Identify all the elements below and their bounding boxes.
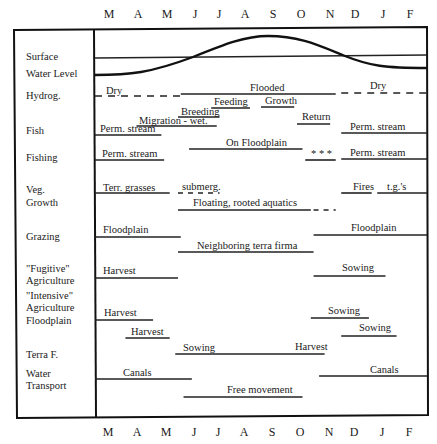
month-label-bottom: N <box>325 425 334 439</box>
event-bar: Floating, rooted aquatics <box>178 197 311 210</box>
month-label-bottom: O <box>296 425 305 439</box>
month-axis-top: MAMJJASONDJF <box>104 7 414 21</box>
event-bar: Canals <box>319 364 427 376</box>
row-label: Hydrog. <box>26 90 61 101</box>
row-label: Grazing <box>26 231 61 242</box>
month-label-top: N <box>326 7 335 21</box>
event-label: Sowing <box>183 342 216 353</box>
activity-events: DryFloodedDryFeedingGrowthBreedingMigrat… <box>95 80 427 397</box>
row-label: Growth <box>26 197 59 208</box>
event-bar: Harvest <box>95 265 178 278</box>
label-column-divider <box>94 29 96 417</box>
month-label-top: A <box>134 7 143 21</box>
event-bar: Sowing <box>314 262 386 276</box>
event-bar: Perm. stream <box>95 123 161 135</box>
event-bar: Perm. stream <box>341 121 427 133</box>
event-label: Perm. stream <box>350 147 405 158</box>
month-label-bottom: S <box>269 425 276 439</box>
month-label-bottom: J <box>192 425 197 439</box>
row-label: Transport <box>26 380 67 391</box>
event-label: Return <box>302 111 331 122</box>
event-bar: * * * <box>305 148 335 160</box>
event-label: Sowing <box>328 305 361 316</box>
event-label: Harvest <box>131 326 164 337</box>
month-label-top: J <box>217 7 222 21</box>
surface-line <box>95 55 427 58</box>
month-label-top: J <box>193 7 198 21</box>
event-label: Fires <box>353 181 374 192</box>
row-label: "Intensive" <box>26 290 73 301</box>
month-label-bottom: F <box>406 425 413 439</box>
event-label: Sowing <box>342 262 375 273</box>
row-label: "Fugitive" <box>26 263 70 274</box>
month-label-top: M <box>104 7 115 21</box>
month-label-top: A <box>241 7 250 21</box>
event-label: Perm. stream <box>350 121 405 132</box>
event-label: Dry <box>370 80 387 91</box>
event-label: t.g.'s <box>387 181 406 192</box>
month-label-top: D <box>351 7 360 21</box>
event-bar: Harvest <box>95 307 153 320</box>
event-label: Perm. stream <box>100 123 155 134</box>
row-label: Water Level <box>26 68 77 79</box>
month-label-top: M <box>162 7 173 21</box>
row-label: Agriculture <box>26 302 75 313</box>
row-label: Agriculture <box>26 275 75 286</box>
event-bar: Floodplain <box>95 224 181 237</box>
event-bar: Free movement <box>184 384 303 397</box>
event-end-label: Harvest <box>295 341 328 352</box>
event-label: Flooded <box>250 82 285 93</box>
event-bar: Sowing <box>341 322 396 336</box>
event-label: Harvest <box>103 265 136 276</box>
event-bar: Floodplain <box>314 222 427 235</box>
event-label: * * * <box>311 148 332 159</box>
event-bar: Return <box>297 111 331 124</box>
event-label: Dry <box>106 85 123 96</box>
event-label: Growth <box>265 95 298 106</box>
event-label: Sowing <box>359 322 392 333</box>
month-label-bottom: D <box>350 425 359 439</box>
event-label: Canals <box>123 367 152 378</box>
seasonal-calendar-diagram: MAMJJASONDJF MAMJJASONDJF SurfaceWater L… <box>0 0 437 444</box>
row-label: Veg. <box>26 184 45 195</box>
event-label: Terr. grasses <box>103 182 155 193</box>
row-label: Fishing <box>26 152 58 163</box>
month-label-bottom: M <box>161 425 172 439</box>
month-label-bottom: A <box>133 425 142 439</box>
month-label-top: O <box>297 7 306 21</box>
month-label-top: S <box>270 7 277 21</box>
event-bar: Dry <box>341 80 427 93</box>
event-label: Floating, rooted aquatics <box>193 197 297 208</box>
event-bar: On Floodplain <box>189 137 302 149</box>
event-bar: SowingHarvest <box>175 341 328 354</box>
month-label-top: F <box>407 7 414 21</box>
event-label: Perm. stream <box>102 148 157 159</box>
event-label: Canals <box>370 364 399 375</box>
event-label: On Floodplain <box>226 137 288 148</box>
event-bar: t.g.'s <box>377 181 427 193</box>
event-bar: Perm. stream <box>341 147 427 159</box>
month-axis-bottom: MAMJJASONDJF <box>103 425 413 439</box>
row-label: Water <box>26 368 51 379</box>
row-label: Surface <box>26 51 58 62</box>
event-bar: Dry <box>95 85 181 96</box>
event-bar: Terr. grasses <box>95 182 170 193</box>
event-bar: Fires <box>341 181 374 193</box>
event-label: Floodplain <box>103 224 149 235</box>
month-label-bottom: M <box>103 425 114 439</box>
month-label-bottom: J <box>216 425 221 439</box>
event-label: Neighboring terra firma <box>197 240 298 251</box>
row-label: Floodplain <box>26 315 72 326</box>
event-bar: Growth <box>261 95 298 107</box>
event-label: Free movement <box>227 384 293 395</box>
event-bar: Neighboring terra firma <box>178 240 314 252</box>
event-bar: Harvest <box>125 326 169 338</box>
event-bar: Flooded <box>181 82 336 94</box>
row-labels: SurfaceWater LevelHydrog.FishFishingVeg.… <box>26 51 77 391</box>
month-label-bottom: J <box>380 425 385 439</box>
event-label: Floodplain <box>351 222 397 233</box>
event-bar: submerg. <box>178 181 221 193</box>
event-label: Harvest <box>104 307 137 318</box>
row-label: Fish <box>26 125 45 136</box>
event-bar: Perm. stream <box>95 148 164 160</box>
